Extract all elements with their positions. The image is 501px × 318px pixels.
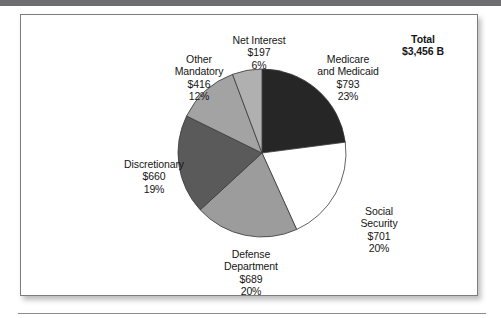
slice-name: Net Interest xyxy=(204,34,314,46)
slice-name-line1: Defense xyxy=(196,248,306,260)
slice-label-medicare-medicaid: Medicare and Medicaid $793 23% xyxy=(293,53,403,103)
slice-value: $701 xyxy=(339,230,419,242)
slice-name-line1: Medicare xyxy=(293,53,403,65)
slice-name: Discretionary xyxy=(99,158,209,170)
slice-label-defense-department: Defense Department $689 20% xyxy=(196,248,306,298)
slice-name-line2: and Medicaid xyxy=(293,65,403,77)
slice-label-other-mandatory: Other Mandatory $416 12% xyxy=(153,53,245,103)
slice-percent: 20% xyxy=(339,242,419,254)
slice-value: $793 xyxy=(293,78,403,90)
total-caption: Total xyxy=(373,33,473,45)
slice-name-line2: Security xyxy=(339,217,419,229)
slice-value: $660 xyxy=(99,170,209,182)
slice-label-social-security: Social Security $701 20% xyxy=(339,205,419,255)
page-root: Total $3,456 B Net Interest $197 6% Othe… xyxy=(0,0,501,318)
slice-name-line1: Social xyxy=(339,205,419,217)
slice-percent: 19% xyxy=(99,183,209,195)
pie-chart: Total $3,456 B Net Interest $197 6% Othe… xyxy=(21,15,479,297)
slice-value: $416 xyxy=(153,78,245,90)
slice-percent: 20% xyxy=(196,285,306,297)
figure-panel: Total $3,456 B Net Interest $197 6% Othe… xyxy=(20,14,478,296)
slice-name-line2: Department xyxy=(196,260,306,272)
slice-label-discretionary: Discretionary $660 19% xyxy=(99,158,209,195)
slice-percent: 12% xyxy=(153,90,245,102)
slice-value: $689 xyxy=(196,273,306,285)
slice-percent: 23% xyxy=(293,90,403,102)
slice-name-line1: Other xyxy=(153,53,245,65)
slice-name-line2: Mandatory xyxy=(153,65,245,77)
top-divider-band xyxy=(0,0,501,6)
bottom-divider-rule xyxy=(18,313,486,314)
